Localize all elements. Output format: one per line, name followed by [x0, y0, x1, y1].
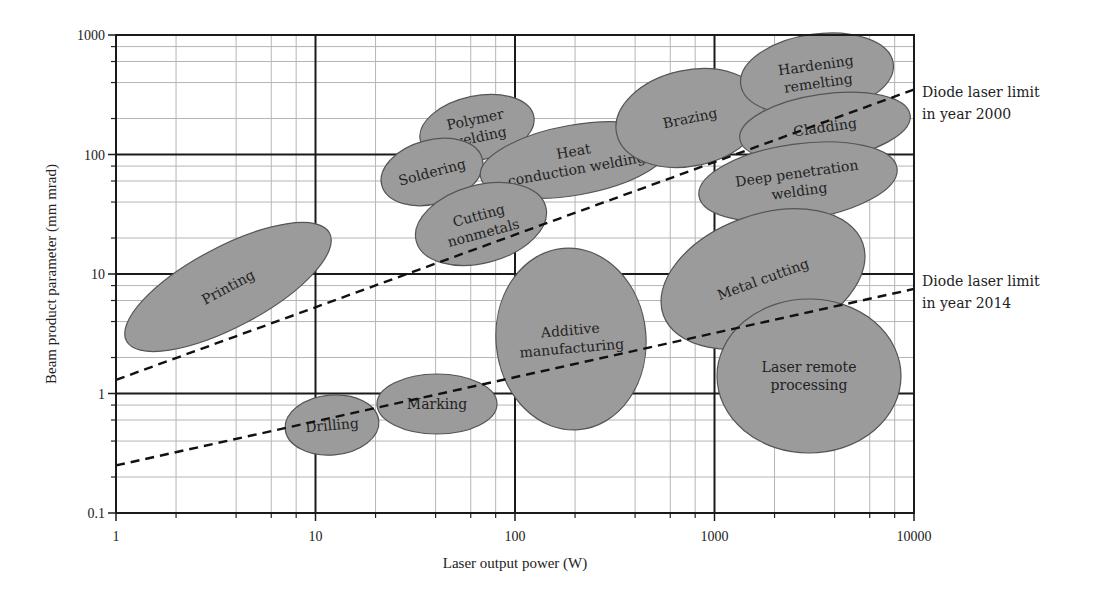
x-tick-label: 10 — [309, 529, 323, 544]
region-ellipse — [488, 242, 653, 436]
y-tick-label: 1000 — [77, 28, 105, 43]
region-ellipse — [717, 299, 901, 453]
region-printing: Printing — [108, 198, 349, 377]
x-axis-title: Laser output power (W) — [443, 555, 588, 572]
diode-limit-annotation: in year 2014 — [922, 295, 1011, 311]
x-tick-label: 1 — [113, 529, 120, 544]
x-tick-label: 100 — [505, 529, 526, 544]
diode-limit-annotation: Diode laser limit — [922, 84, 1040, 100]
y-axis-title: Beam product parameter (mm mrad) — [43, 164, 60, 384]
x-tick-label: 10000 — [897, 529, 932, 544]
y-tick-label: 10 — [91, 267, 105, 282]
region-label: Laser remote — [762, 359, 857, 375]
diode-limit-annotation: Diode laser limit — [922, 273, 1040, 289]
region-additive-manufacturing: Additivemanufacturing — [488, 242, 653, 436]
y-tick-label: 1 — [98, 387, 105, 402]
chart: PrintingDrillingMarkingPolymerweldingSol… — [0, 0, 1095, 595]
x-tick-label: 1000 — [701, 529, 729, 544]
region-laser-remote-processing: Laser remoteprocessing — [717, 299, 901, 453]
y-tick-label: 0.1 — [88, 506, 106, 521]
diode-limit-annotation: in year 2000 — [922, 106, 1011, 122]
region-label: processing — [770, 377, 847, 393]
y-tick-label: 100 — [84, 148, 105, 163]
annotations: Diode laser limitin year 2000Diode laser… — [922, 84, 1040, 311]
